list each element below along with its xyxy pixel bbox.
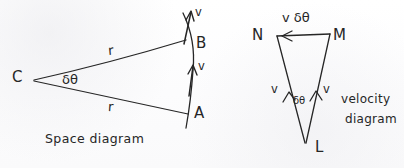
point-a-label: A [194, 106, 204, 121]
velocity-diagram-caption-line1: velocity [341, 93, 390, 105]
space-center-label: C [12, 70, 22, 85]
vector-ln-shaft [277, 36, 305, 143]
point-n-label: N [252, 28, 263, 43]
point-l-label: L [315, 140, 323, 155]
space-angle-label: δθ [62, 73, 78, 86]
velocity-angle-label: δθ [293, 96, 305, 106]
radius-label-top: r [107, 44, 113, 57]
velocity-label-a: v [198, 61, 205, 73]
point-b-label: B [196, 36, 206, 51]
radius-label-bottom: r [108, 100, 114, 113]
velocity-label-b: v [195, 7, 202, 19]
velocity-label-left-leg: v [271, 84, 278, 96]
diagram-canvas: C r r δθ v v B A Space diagram v δθ N M … [0, 0, 404, 168]
space-diagram-caption: Space diagram [45, 133, 144, 146]
velocity-diagram-caption-line2: diagram [345, 113, 397, 125]
vector-mn-label: v δθ [282, 11, 310, 24]
point-m-label: M [333, 28, 346, 43]
velocity-label-right-leg: v [323, 84, 330, 96]
